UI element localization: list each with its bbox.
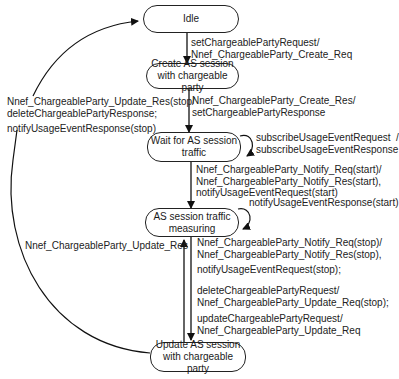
label-measuring-to-update-4: updateChargeablePartyRequest/ Nnef_Charg…	[197, 313, 360, 336]
state-wait-for-traffic: Wait for AS session traffic	[147, 132, 241, 162]
label-measuring-self-loop: notifyUsageEventResponse(start)	[249, 197, 399, 209]
label-wait-to-measuring: Nnef_ChargeableParty_Notify_Req(start)/ …	[196, 164, 382, 199]
label-measuring-to-update-2: notifyUsageEventRequest(stop);	[197, 264, 341, 276]
state-create-as-session: Create AS session with chargeable party	[146, 63, 239, 89]
label-update-to-idle-1: Nnef_ChargeableParty_Update_Res(stop/ de…	[7, 96, 195, 119]
label-idle-to-create: setChargeablePartyRequest/ Nnef_Chargeab…	[191, 37, 352, 60]
arrow-measuring-self-loop	[238, 209, 250, 229]
label-create-to-wait: Nnef_ChargeableParty_Create_Res/ setChar…	[192, 95, 355, 118]
label-wait-self-loop: subscribeUsageEventRequest / subscribeUs…	[256, 132, 399, 155]
label-measuring-to-update-3: deleteChargeablePartyRequest/ Nnef_Charg…	[197, 285, 389, 308]
arrow-update-to-idle-top	[33, 21, 138, 96]
arrow-wait-self-loop	[240, 135, 252, 156]
label-update-to-measuring: Nnef_ChargeableParty_Update_Res	[25, 240, 188, 252]
label-measuring-to-update-1: Nnef_ChargeableParty_Notify_Req(stop)/ N…	[197, 237, 382, 260]
state-traffic-measuring: AS session traffic measuring	[145, 208, 239, 237]
label-update-to-idle-2: notifyUsageEventResponse(stop)	[7, 123, 156, 135]
state-idle: Idle	[143, 5, 239, 33]
state-update-as-session: Update AS session with chargeable party	[150, 342, 246, 372]
